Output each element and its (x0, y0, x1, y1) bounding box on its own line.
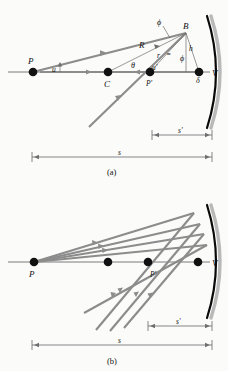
label-theta-a: θ (131, 61, 135, 70)
point-P-b (30, 258, 39, 267)
incident-arrow-b-1 (92, 240, 98, 246)
axis-ray-arrow-right (86, 70, 92, 75)
point-P-prime-b (144, 258, 153, 267)
reflected-ray-b-1 (96, 213, 194, 330)
incident-arrow-b-3 (102, 248, 108, 253)
figure-svg: P C P' V B u u' θ ϕ ϕ δ R r = h s' (0, 0, 228, 371)
angle-tick-phi-top (163, 26, 170, 38)
label-C-a: C (104, 79, 111, 89)
label-P-prime-a: P' (145, 79, 153, 88)
dimension-s-a: s (32, 148, 212, 162)
point-V-a (195, 68, 204, 77)
incident-arrow-b-2 (98, 244, 104, 249)
label-P-prime-b: P' (149, 270, 157, 279)
label-s-prime-a: s' (178, 126, 183, 135)
dimension-s-b: s (32, 336, 212, 350)
dimension-s-prime-a: s' (152, 126, 212, 140)
label-r-a: r (157, 51, 160, 60)
label-phi-right-a: ϕ (180, 54, 184, 63)
point-V-b (194, 258, 203, 267)
incident-ray-a (33, 33, 186, 72)
label-V-a: V (212, 68, 219, 78)
label-B-a: B (183, 21, 189, 31)
point-P-a (29, 68, 38, 77)
label-equals-a: = (166, 50, 171, 59)
label-s-b: s (118, 336, 121, 345)
point-C-b (104, 258, 113, 267)
label-P-a: P (27, 56, 34, 66)
label-u-a: u (52, 65, 56, 74)
label-phi-top-a: ϕ (157, 18, 161, 27)
optics-figure: P C P' V B u u' θ ϕ ϕ δ R r = h s' (0, 0, 228, 371)
label-h-a: h (189, 44, 193, 53)
caption-a: (a) (107, 167, 117, 177)
label-delta-a: δ (196, 76, 200, 85)
label-P-b: P (28, 269, 35, 279)
incident-ray-b-2 (34, 224, 200, 262)
panel-a: P C P' V B u u' θ ϕ ϕ δ R r = h s' (8, 16, 220, 177)
label-R-a: R (138, 40, 145, 50)
axis-ray-arrow-left (134, 70, 140, 75)
label-V-b: V (212, 258, 219, 268)
caption-b: (b) (107, 356, 117, 366)
label-u-prime-a: u' (152, 63, 158, 72)
label-s-a: s (118, 148, 121, 157)
radius-line-CB (108, 33, 186, 72)
point-C-a (104, 68, 113, 77)
dimension-s-prime-b: s' (148, 317, 212, 331)
label-s-prime-b: s' (176, 317, 181, 326)
panel-b: P P' V s' s (b) (8, 205, 220, 366)
